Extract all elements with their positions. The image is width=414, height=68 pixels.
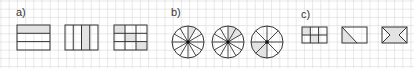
figures-canvas xyxy=(0,0,414,68)
figure-b3-circle-8-sectors xyxy=(251,26,283,58)
fraction-figures-diagram: a) b) c) xyxy=(0,0,414,68)
figure-b1-circle-12-sectors xyxy=(172,26,204,58)
figure-c1-rect-2x3-grid xyxy=(302,27,327,43)
figure-b2-circle-12-sectors xyxy=(212,26,244,58)
figure-a3-rect-3x3-grid xyxy=(114,25,147,50)
figure-a2-rect-4-cols xyxy=(65,25,98,50)
label-c: c) xyxy=(301,8,310,20)
label-b: b) xyxy=(171,6,181,18)
label-a: a) xyxy=(16,6,26,18)
graph-paper-grid xyxy=(0,0,414,68)
figure-c2-rect-diagonal xyxy=(342,27,367,43)
figure-b-circles xyxy=(172,26,283,58)
figure-c3-rect-envelope xyxy=(382,27,407,43)
